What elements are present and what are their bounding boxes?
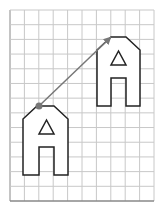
translation-diagram <box>0 0 161 210</box>
original-house-shape <box>23 106 68 175</box>
house-outline <box>97 37 140 106</box>
translated-house-shape <box>97 37 140 106</box>
reference-point <box>36 103 43 110</box>
house-outline <box>23 106 68 175</box>
